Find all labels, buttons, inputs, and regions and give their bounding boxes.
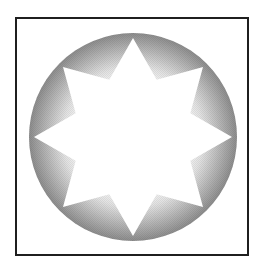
diagram-canvas bbox=[0, 0, 259, 266]
figure bbox=[0, 0, 259, 266]
eight-point-star bbox=[34, 38, 232, 236]
